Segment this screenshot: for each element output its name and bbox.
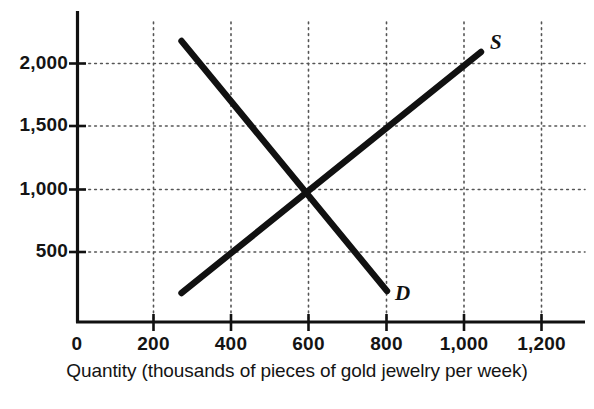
chart-figure: 2,000 1,500 1,000 500 0 200 400 600 800 … [0, 0, 594, 409]
xtick-label-1200: 1,200 [507, 333, 577, 355]
vertical-gridlines [154, 22, 542, 322]
xtick-label-0: 0 [47, 333, 107, 355]
xtick-label-600: 600 [279, 333, 339, 355]
ytick-label-1000: 1,000 [0, 178, 68, 200]
demand-curve [182, 41, 388, 291]
xtick-label-800: 800 [357, 333, 417, 355]
x-axis-title: Quantity (thousands of pieces of gold je… [0, 360, 594, 382]
supply-curve [182, 52, 482, 293]
ytick-label-1500: 1,500 [0, 114, 68, 136]
demand-curve-label: D [395, 281, 410, 306]
xtick-label-200: 200 [124, 333, 184, 355]
ytick-label-500: 500 [0, 240, 68, 262]
ytick-label-2000: 2,000 [0, 52, 68, 74]
xtick-label-400: 400 [201, 333, 261, 355]
supply-curve-label: S [490, 30, 502, 55]
xtick-label-1000: 1,000 [429, 333, 499, 355]
